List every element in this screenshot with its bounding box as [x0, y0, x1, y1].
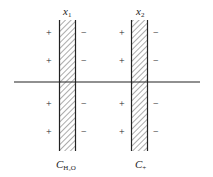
- plus-sign: +: [46, 126, 52, 137]
- plus-sign: +: [46, 55, 52, 66]
- minus-sign: −: [153, 27, 159, 38]
- plus-sign: +: [46, 27, 52, 38]
- membrane-diagram: x1 CH₂O + + + + − − − − x2 C+ + + + + − …: [0, 0, 213, 177]
- minus-sign: −: [81, 27, 87, 38]
- plus-sign: +: [119, 55, 125, 66]
- plus-sign: +: [119, 98, 125, 109]
- plus-sign: +: [119, 126, 125, 137]
- membrane-1-bottom-label: CH₂O: [56, 158, 76, 172]
- minus-sign: −: [81, 126, 87, 137]
- minus-sign: −: [153, 55, 159, 66]
- minus-sign: −: [153, 126, 159, 137]
- minus-sign: −: [81, 98, 87, 109]
- membrane-2-top-label: x2: [135, 5, 145, 19]
- minus-sign: −: [81, 55, 87, 66]
- membrane-1-top-label: x1: [62, 5, 72, 19]
- membrane-2-bottom-label: C+: [135, 158, 146, 172]
- membrane-2: x2 C+ + + + + − − − −: [119, 5, 159, 172]
- membrane-1: x1 CH₂O + + + + − − − −: [46, 5, 87, 172]
- minus-sign: −: [153, 98, 159, 109]
- plus-sign: +: [119, 27, 125, 38]
- plus-sign: +: [46, 98, 52, 109]
